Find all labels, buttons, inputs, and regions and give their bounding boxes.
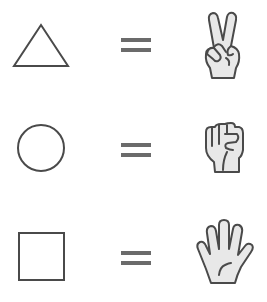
equals-sign xyxy=(120,141,152,161)
equals-sign xyxy=(120,249,152,269)
square-icon xyxy=(17,231,67,283)
open-hand-icon xyxy=(195,219,255,287)
triangle-icon xyxy=(10,22,72,70)
circle-icon xyxy=(16,123,66,173)
equals-sign xyxy=(120,36,152,56)
row-gesture-label: peace sign (two fingers / scissors) xyxy=(0,0,1,1)
fist-hand-icon xyxy=(203,122,245,174)
mapping-row-circle: circle closed fist (rock) xyxy=(0,100,267,200)
row-shape-label: circle xyxy=(0,100,1,101)
mapping-row-triangle: triangle peace sign (two fingers / sciss… xyxy=(0,0,267,100)
row-gesture-label: closed fist (rock) xyxy=(0,100,1,101)
row-shape-label: triangle xyxy=(0,0,1,1)
row-shape-label: square xyxy=(0,200,1,201)
peace-hand-icon xyxy=(200,10,248,80)
mapping-row-square: square open palm (paper) xyxy=(0,200,267,302)
row-gesture-label: open palm (paper) xyxy=(0,200,1,201)
